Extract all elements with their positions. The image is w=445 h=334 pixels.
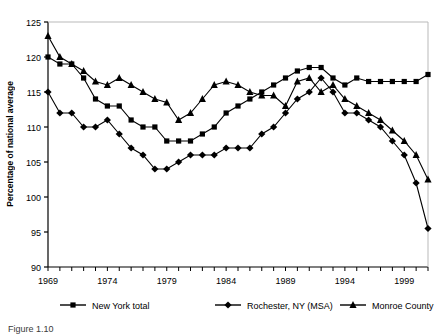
series-square — [45, 54, 430, 143]
y-tick-label-group: 9095100105110115120125 — [26, 18, 41, 273]
square-marker — [402, 79, 407, 84]
square-marker — [224, 110, 229, 115]
square-marker — [235, 103, 240, 108]
x-tick-label: 1994 — [335, 276, 355, 286]
triangle-marker — [223, 78, 230, 85]
diamond-marker — [353, 109, 360, 116]
y-tick-label: 115 — [27, 88, 41, 98]
legend-item-diamond: Rochester, NY (MSA) — [215, 301, 333, 311]
series-diamond — [44, 74, 431, 232]
square-marker — [129, 117, 134, 122]
diamond-marker — [92, 123, 99, 130]
diamond-marker — [224, 301, 231, 308]
square-marker — [319, 65, 324, 70]
square-marker — [70, 302, 75, 307]
legend-item-triangle: Monroe County — [340, 301, 434, 311]
y-tick-label: 125 — [26, 18, 41, 28]
triangle-marker — [128, 81, 135, 88]
square-marker — [330, 75, 335, 80]
square-marker — [271, 82, 276, 87]
triangle-marker — [56, 53, 63, 60]
square-marker — [366, 79, 371, 84]
triangle-marker — [365, 109, 372, 116]
figure-caption: Figure 1.10 — [8, 324, 54, 334]
diamond-marker — [424, 225, 431, 232]
legend-label: Rochester, NY (MSA) — [247, 301, 333, 311]
square-marker — [57, 61, 62, 66]
triangle-marker — [377, 116, 384, 123]
square-marker — [283, 75, 288, 80]
figure-container: Percentage of national average 909510010… — [0, 0, 445, 334]
triangle-marker — [151, 95, 158, 102]
triangle-marker — [424, 176, 431, 183]
diamond-marker — [413, 179, 420, 186]
diamond-marker — [234, 144, 241, 151]
square-marker — [93, 96, 98, 101]
diamond-marker — [175, 158, 182, 165]
square-marker — [200, 131, 205, 136]
diamond-marker — [56, 109, 63, 116]
y-tick-label: 90 — [31, 263, 41, 273]
square-marker — [342, 82, 347, 87]
diamond-marker — [211, 151, 218, 158]
triangle-marker — [329, 81, 336, 88]
x-tick-label: 1984 — [216, 276, 236, 286]
triangle-marker — [353, 102, 360, 109]
y-tick-label: 100 — [26, 193, 41, 203]
triangle-marker — [306, 74, 313, 81]
chart-legend: New York totalRochester, NY (MSA)Monroe … — [60, 301, 434, 311]
line-chart: 9095100105110115120125 19691974197919841… — [0, 0, 445, 334]
square-marker — [425, 72, 430, 77]
diamond-marker — [341, 109, 348, 116]
diamond-marker — [163, 165, 170, 172]
square-marker — [105, 103, 110, 108]
diamond-marker — [199, 151, 206, 158]
square-marker — [188, 138, 193, 143]
square-marker — [164, 138, 169, 143]
square-marker — [212, 124, 217, 129]
diamond-marker — [365, 116, 372, 123]
series-line — [48, 78, 428, 229]
x-tick-label-group: 1969197419791984198919941999 — [38, 276, 414, 286]
square-marker — [45, 54, 50, 59]
square-marker — [140, 124, 145, 129]
x-tick-label: 1969 — [38, 276, 58, 286]
square-marker — [295, 68, 300, 73]
y-tick-label: 110 — [27, 123, 41, 133]
x-tick-label: 1989 — [275, 276, 295, 286]
legend-label: New York total — [92, 301, 150, 311]
series-line — [48, 57, 428, 141]
triangle-marker — [44, 32, 51, 39]
square-marker — [390, 79, 395, 84]
square-marker — [414, 79, 419, 84]
triangle-marker — [139, 88, 146, 95]
y-tick-label: 120 — [26, 53, 41, 63]
legend-label: Monroe County — [372, 301, 434, 311]
diamond-marker — [223, 144, 230, 151]
square-marker — [247, 96, 252, 101]
x-tick-label: 1999 — [394, 276, 414, 286]
x-tick-label: 1974 — [97, 276, 117, 286]
square-marker — [378, 79, 383, 84]
triangle-marker — [80, 67, 87, 74]
y-tick-label: 95 — [31, 228, 41, 238]
diamond-marker — [44, 88, 51, 95]
triangle-marker — [116, 74, 123, 81]
square-marker — [307, 65, 312, 70]
data-series-group — [44, 32, 431, 232]
square-marker — [81, 75, 86, 80]
square-marker — [354, 75, 359, 80]
triangle-marker — [246, 88, 253, 95]
square-marker — [176, 138, 181, 143]
x-tick-label: 1979 — [157, 276, 177, 286]
diamond-marker — [187, 151, 194, 158]
square-marker — [117, 103, 122, 108]
legend-item-square: New York total — [60, 301, 150, 311]
y-tick-label: 105 — [26, 158, 41, 168]
square-marker — [152, 124, 157, 129]
